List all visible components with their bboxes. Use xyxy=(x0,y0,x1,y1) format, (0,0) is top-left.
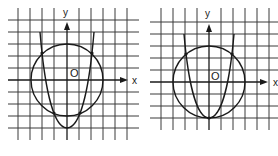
left-intersection-point xyxy=(40,51,43,54)
right-x-label: x xyxy=(273,77,278,88)
left-graph: x y O xyxy=(8,7,139,140)
right-y-arrow-icon xyxy=(206,24,212,32)
right-y-label: y xyxy=(205,8,210,19)
left-intersection-point xyxy=(78,111,81,114)
right-x-arrow-icon xyxy=(260,79,268,85)
right-intersection-point xyxy=(207,116,210,119)
right-grid xyxy=(150,8,278,130)
left-intersection-point xyxy=(90,51,93,54)
left-intersection-point xyxy=(52,111,55,114)
left-origin-label: O xyxy=(70,67,79,79)
right-origin-label: O xyxy=(211,70,220,82)
right-intersection-point xyxy=(230,52,233,55)
left-x-label: x xyxy=(132,75,137,86)
left-y-label: y xyxy=(63,7,68,18)
left-y-arrow-icon xyxy=(64,22,70,30)
right-intersection-point xyxy=(184,52,187,55)
right-graph: x y O xyxy=(150,8,278,130)
figure: x y O xyxy=(0,0,278,156)
